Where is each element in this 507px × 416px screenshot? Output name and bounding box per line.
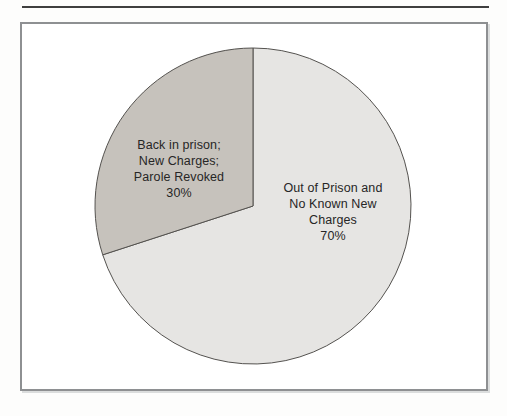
label-line-percent: 30% — [94, 185, 264, 201]
top-rule — [22, 6, 489, 8]
pie-label-out-of-prison: Out of Prison and No Known New Charges 7… — [243, 180, 423, 244]
label-line: Out of Prison and — [243, 180, 423, 196]
figure-frame: Back in prison; New Charges; Parole Revo… — [20, 22, 488, 391]
label-line-percent: 70% — [243, 228, 423, 244]
label-line: Charges — [243, 212, 423, 228]
pie-label-back-in-prison: Back in prison; New Charges; Parole Revo… — [94, 137, 264, 201]
label-line: Back in prison; — [94, 137, 264, 153]
label-line: New Charges; — [94, 153, 264, 169]
label-line: Parole Revoked — [94, 169, 264, 185]
label-line: No Known New — [243, 196, 423, 212]
